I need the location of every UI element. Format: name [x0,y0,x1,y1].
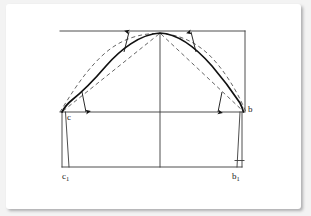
arrow-down-right-icon [218,92,222,112]
right-slant-line [237,112,240,167]
construction-framework [60,31,245,167]
label-c-text: c [67,112,71,122]
label-b-text: b [248,104,253,114]
arrow-down-left-icon [82,92,86,112]
label-b1-subscript: 1 [237,175,240,182]
dashed-chord-right [161,34,243,111]
dashed-chords [63,34,243,111]
label-b1: b1 [232,172,240,182]
solid-bell-curve [62,33,244,112]
label-b: b [248,105,253,114]
geometry-diagram [0,0,311,216]
dashed-chord-left [63,34,159,111]
label-c1-subscript: 1 [66,175,69,182]
arrow-up-left-icon [124,32,129,52]
direction-arrows [82,32,222,112]
screenshot-canvas: c b c1 b1 [0,0,311,216]
label-c1: c1 [62,172,69,182]
label-c: c [67,113,71,122]
